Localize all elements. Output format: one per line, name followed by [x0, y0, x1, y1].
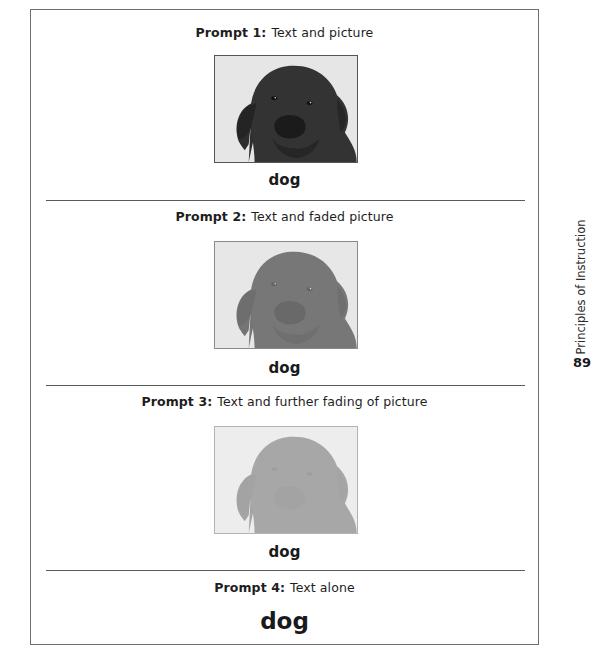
prompt-4-word: dog [30, 607, 539, 635]
divider [46, 200, 525, 201]
prompt-2-description: Text and faded picture [251, 209, 393, 224]
running-head-title: Principles of Instruction [574, 220, 588, 355]
dog-image-icon [215, 427, 357, 533]
divider [46, 385, 525, 386]
prompt-1-description: Text and picture [271, 25, 373, 40]
prompt-2-heading: Prompt 2:Text and faded picture [30, 209, 539, 225]
running-head: Principles of Instruction [574, 232, 588, 342]
dog-image-icon [215, 242, 357, 348]
prompt-4-label: Prompt 4: [214, 580, 285, 595]
prompt-2-label: Prompt 2: [175, 209, 246, 224]
prompt-3-heading: Prompt 3:Text and further fading of pict… [30, 394, 539, 410]
prompt-3-description: Text and further fading of picture [217, 394, 427, 409]
prompt-2-word: dog [30, 359, 539, 377]
prompt-1-word: dog [30, 171, 539, 189]
divider [46, 570, 525, 571]
prompt-3-word: dog [30, 543, 539, 561]
prompt-4-description: Text alone [290, 580, 355, 595]
prompt-3-label: Prompt 3: [141, 394, 212, 409]
prompt-1-heading: Prompt 1:Text and picture [30, 25, 539, 41]
prompt-3-further-faded-dog-picture [214, 426, 358, 534]
prompt-1-dog-picture [214, 55, 358, 163]
page-number: 89 [568, 355, 596, 370]
prompt-2-faded-dog-picture [214, 241, 358, 349]
dog-image-icon [215, 56, 357, 162]
prompt-4-heading: Prompt 4:Text alone [30, 580, 539, 596]
prompt-1-label: Prompt 1: [196, 25, 267, 40]
